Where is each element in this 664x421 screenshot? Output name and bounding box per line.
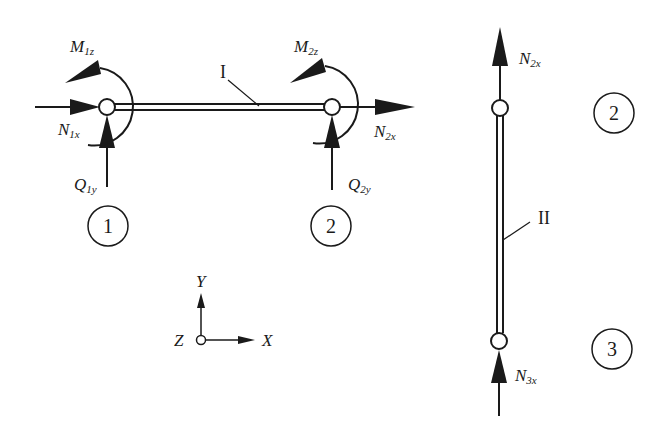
q2y-label: Q2y — [348, 175, 371, 195]
node-3-number: 3 — [607, 338, 617, 360]
n3x-arrow-head — [491, 350, 507, 383]
n2x-label-bar: N2x — [518, 49, 541, 69]
node-2-number-bar: 2 — [609, 102, 619, 124]
y-axis-arrow — [197, 293, 205, 308]
n2x-bar-arrow-head — [492, 27, 508, 66]
element-I-beam — [115, 104, 329, 110]
node-2-group — [290, 58, 415, 190]
element-I-leader — [228, 80, 259, 106]
m2z-arrow-head — [290, 58, 326, 83]
m1z-arrow-head — [65, 60, 101, 83]
m2z-label: M2z — [293, 37, 319, 57]
n3x-label: N3x — [514, 366, 537, 386]
n1x-label: N1x — [57, 120, 80, 140]
z-axis-label: Z — [174, 331, 184, 350]
x-axis-label: X — [261, 331, 273, 350]
diagram-canvas: I M1z N1x Q1y 1 M2z N2x Q2y 2 — [0, 0, 664, 421]
n1x-arrow-head — [70, 99, 100, 115]
element-II-leader — [503, 222, 530, 240]
node-1-hinge — [99, 99, 115, 115]
node-2-number-beam: 2 — [326, 215, 336, 237]
y-axis-label: Y — [196, 272, 207, 291]
n2x-label-beam: N2x — [373, 122, 396, 142]
node-1-group — [35, 60, 133, 187]
node-3-hinge — [491, 333, 507, 349]
n2x-arrow-head — [375, 99, 415, 115]
coordinate-axes — [197, 293, 256, 345]
element-I-label: I — [220, 62, 226, 82]
q1y-label: Q1y — [74, 175, 97, 195]
z-axis-origin — [197, 336, 206, 345]
element-II-bar — [497, 116, 503, 333]
node-2-hinge-bar — [492, 100, 508, 116]
diagram-svg: I M1z N1x Q1y 1 M2z N2x Q2y 2 — [0, 0, 664, 421]
node-2-hinge-beam — [324, 99, 340, 115]
node-1-number: 1 — [103, 215, 113, 237]
m1z-label: M1z — [69, 37, 95, 57]
element-II-label: II — [538, 208, 550, 228]
x-axis-arrow — [238, 336, 255, 344]
